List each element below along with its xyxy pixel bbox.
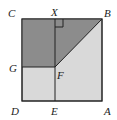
label-x: X xyxy=(50,6,59,18)
label-g: G xyxy=(9,62,17,74)
label-b: B xyxy=(104,7,111,19)
label-d: D xyxy=(10,105,19,117)
label-e: E xyxy=(50,105,58,117)
geometry-diagram: C X B G F D E A xyxy=(0,0,117,120)
label-c: C xyxy=(8,7,16,19)
label-a: A xyxy=(103,105,111,117)
label-f: F xyxy=(56,69,64,81)
